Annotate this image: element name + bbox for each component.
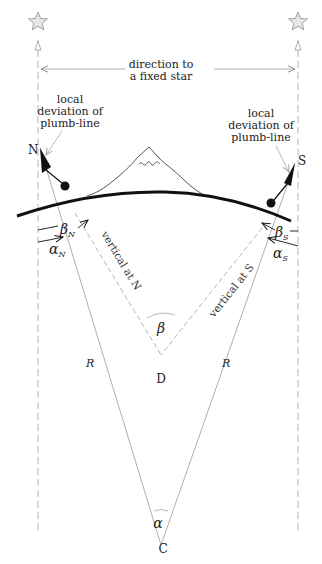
star-direction-line-right [295, 40, 301, 530]
point-n-label: N [28, 143, 39, 157]
radius-line-south [161, 163, 295, 545]
radius-label-left: R [85, 357, 94, 370]
left-annotation-line3: plumb-line [40, 117, 99, 130]
point-s-label: S [298, 154, 306, 168]
alpha-s-label: αS [273, 245, 288, 263]
right-annotation-pointer [276, 146, 289, 172]
vertical-line-north [75, 213, 161, 355]
star-icon-right [289, 12, 308, 30]
beta-n-label: βN [59, 221, 76, 239]
point-c-label: C [158, 542, 167, 556]
beta-label: β [156, 320, 165, 336]
beta-angle-arc [147, 313, 175, 318]
left-annotation-pointer [46, 131, 62, 155]
geodesy-diagram: direction to a fixed star local deviatio… [0, 0, 322, 564]
mountain-icon [87, 147, 206, 196]
alpha-angle-arc [154, 510, 168, 512]
vertical-line-south [161, 228, 262, 355]
plumb-bob-north [40, 148, 70, 191]
plumb-bob-south [267, 163, 296, 208]
vertical-at-n-label: vertical at N [99, 228, 144, 292]
alpha-n-label: αN [49, 241, 66, 259]
star-direction-label-line2: a fixed star [130, 70, 193, 83]
alpha-label: α [153, 515, 163, 531]
radius-line-north [40, 148, 161, 545]
right-annotation-line3: plumb-line [231, 131, 290, 144]
star-icon-left [29, 12, 48, 30]
vertical-at-s-label: vertical at S [206, 261, 256, 320]
point-d-label: D [156, 372, 166, 386]
beta-s-label: βS [274, 224, 289, 242]
radius-label-right: R [221, 357, 230, 370]
